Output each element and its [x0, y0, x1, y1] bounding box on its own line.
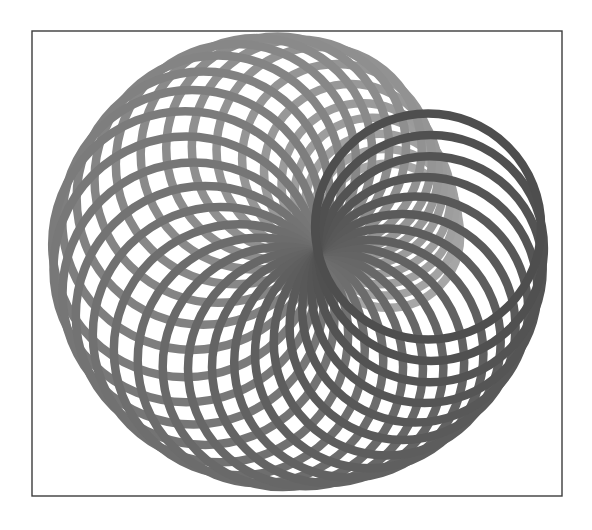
spiral-circle-artwork — [0, 0, 592, 530]
circle-rings-group — [52, 37, 544, 487]
